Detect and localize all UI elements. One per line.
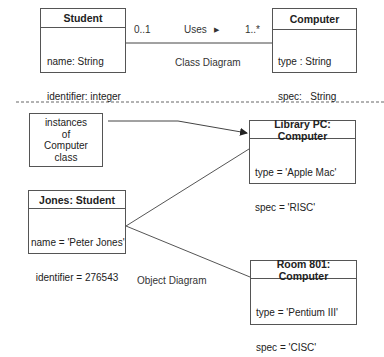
student-class-name: Student xyxy=(41,9,125,28)
attribute: spec = 'RISC' xyxy=(255,202,349,214)
computer-class-box: Computer type : String spec: String xyxy=(272,8,357,73)
room-801-object-name: Room 801: Computer xyxy=(251,261,356,279)
instances-note: instances of Computer class xyxy=(29,113,103,167)
note-line: class xyxy=(30,152,102,164)
link-jones-librarypc xyxy=(126,149,249,226)
room-801-object-box: Room 801: Computer type = 'Pentium III' … xyxy=(250,260,357,325)
attribute: identifier: integer xyxy=(47,91,119,103)
library-pc-object-name: Library PC: Computer xyxy=(250,121,355,139)
computer-class-attributes: type : String spec: String xyxy=(273,30,356,129)
target-multiplicity: 1..* xyxy=(245,24,260,35)
attribute: type = 'Apple Mac' xyxy=(255,167,349,179)
note-line: instances xyxy=(30,117,102,129)
object-diagram-caption: Object Diagram xyxy=(137,275,206,286)
class-diagram-caption: Class Diagram xyxy=(175,57,241,68)
library-pc-attributes: type = 'Apple Mac' spec = 'RISC' xyxy=(250,139,355,240)
attribute: type = 'Pentium III' xyxy=(256,307,350,319)
attribute: type : String xyxy=(278,56,350,68)
room-801-attributes: type = 'Pentium III' spec = 'CISC' xyxy=(251,279,356,357)
computer-class-name: Computer xyxy=(273,9,356,30)
note-line: Computer xyxy=(30,140,102,152)
attribute: name = 'Peter Jones' xyxy=(31,237,123,249)
attribute: spec = 'CISC' xyxy=(256,342,350,354)
source-multiplicity: 0..1 xyxy=(134,24,151,35)
student-class-box: Student name: String identifier: integer xyxy=(40,8,126,73)
library-pc-object-box: Library PC: Computer type = 'Apple Mac' … xyxy=(249,120,356,184)
association-name: Uses xyxy=(184,24,207,35)
link-jones-room801 xyxy=(126,226,250,277)
note-arrow xyxy=(108,121,247,133)
jones-attributes: name = 'Peter Jones' identifier = 276543 xyxy=(29,209,125,311)
jones-object-box: Jones: Student name = 'Peter Jones' iden… xyxy=(28,190,126,254)
attribute: name: String xyxy=(47,56,119,68)
jones-object-name: Jones: Student xyxy=(29,191,125,209)
note-line: of xyxy=(30,129,102,141)
association-label: Uses ▶ xyxy=(184,24,219,35)
attribute: spec: String xyxy=(278,91,350,103)
attribute: identifier = 276543 xyxy=(31,272,123,284)
triangle-right-icon: ▶ xyxy=(214,26,219,33)
